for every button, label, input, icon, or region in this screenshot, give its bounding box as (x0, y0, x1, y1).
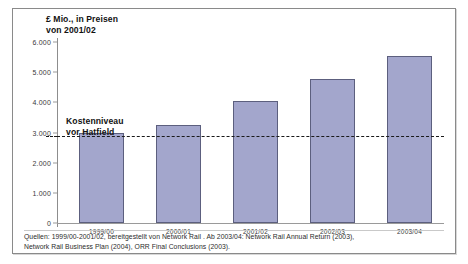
y-tick-label-3000: 3.000 (32, 129, 51, 136)
source-note: Quellen: 1999/00-2001/02, bereitgestellt… (24, 232, 444, 251)
reference-line-label: Kostenniveau vor Hatfield (66, 116, 124, 138)
y-tick-mark-0 (53, 223, 57, 224)
reference-line-label-line-1: Kostenniveau (66, 116, 124, 127)
y-tick-mark-1000 (53, 192, 57, 193)
chart-figure: £ Mio., in Preisen von 2001/02 0 1.000 2… (0, 0, 468, 264)
y-tick-label-6000: 6.000 (32, 39, 51, 46)
source-note-line-2: Network Rail Business Plan (2004), ORR F… (24, 242, 444, 252)
y-tick-label-1000: 1.000 (32, 189, 51, 196)
bar-1999-00 (79, 133, 124, 223)
source-note-line-1: Quellen: 1999/00-2001/02, bereitgestellt… (24, 232, 444, 242)
y-axis-title-line-1: £ Mio., in Preisen (46, 14, 118, 25)
bar-2003-04 (387, 56, 432, 223)
y-tick-mark-4000 (53, 102, 57, 103)
bar-2002-03 (310, 79, 355, 223)
y-tick-mark-6000 (53, 42, 57, 43)
y-tick-label-4000: 4.000 (32, 99, 51, 106)
bar-2001-02 (233, 101, 278, 223)
y-tick-label-5000: 5.000 (32, 69, 51, 76)
y-tick-label-2000: 2.000 (32, 159, 51, 166)
bar-2000-01 (156, 125, 201, 223)
y-tick-label-0: 0 (47, 220, 51, 227)
y-axis-title-line-2: von 2001/02 (46, 25, 118, 36)
source-divider (24, 230, 444, 231)
x-axis-line (57, 223, 444, 224)
y-tick-mark-2000 (53, 162, 57, 163)
y-tick-mark-3000 (53, 132, 57, 133)
reference-line-extension (46, 136, 57, 137)
y-tick-mark-5000 (53, 72, 57, 73)
reference-line-label-line-2: vor Hatfield (66, 127, 124, 138)
y-axis-title: £ Mio., in Preisen von 2001/02 (46, 14, 118, 36)
